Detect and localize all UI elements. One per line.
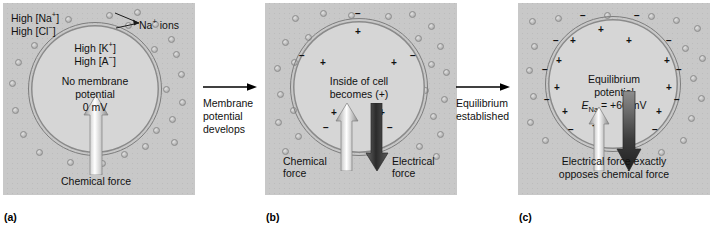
ion [179, 99, 186, 106]
ion [680, 137, 687, 144]
charge-negative-outside: − [674, 95, 680, 105]
ion [67, 159, 74, 166]
transition-2-caption-line-1: Equilibrium [456, 97, 512, 109]
transition-2: Equilibrium established [456, 78, 512, 122]
transition-1-caption-line-2: potential [203, 110, 259, 122]
panel-b: − − − − − + + + + + Inside of cell becom… [265, 3, 457, 195]
ion [648, 13, 655, 20]
transition-1-arrow-icon [203, 82, 259, 92]
panel-b-electrical-force-line-1: Electrical [392, 155, 435, 168]
charge-negative-outside: − [568, 125, 574, 135]
panel-c-equilibrium-potential-value: ENa = +60 mV [554, 99, 674, 117]
ion [526, 67, 533, 74]
ion [12, 107, 19, 114]
panel-a-center-line-1: No membrane [35, 75, 155, 88]
ion [20, 131, 27, 138]
panel-letter-a: (a) [4, 211, 17, 223]
label-na-ions: Na+ ions [139, 16, 179, 31]
transition-2-arrow-icon [456, 82, 512, 92]
ion [151, 46, 158, 53]
ion [531, 43, 538, 50]
ion [428, 23, 435, 30]
ion [277, 91, 284, 98]
charge-negative-outside: − [652, 125, 658, 135]
ion [121, 151, 128, 158]
charge-negative-outside: − [410, 51, 416, 61]
ion [15, 59, 22, 66]
ion [153, 127, 160, 134]
ion [292, 15, 299, 22]
charge-negative-outside: − [553, 36, 559, 46]
panel-b-chemical-force-line-1: Chemical [283, 155, 327, 168]
panel-letter-c: (c) [519, 211, 532, 223]
charge-negative-outside: − [580, 11, 586, 21]
ion [31, 42, 38, 49]
panel-a: High [Na+] High [Cl−] Na+ ions High [K+]… [3, 3, 195, 195]
charge-positive-inside: + [355, 27, 361, 37]
panel-c-center-line-1: Equilibrium [554, 73, 674, 86]
ion [163, 86, 170, 93]
ion [443, 69, 450, 76]
panel-c-center-line-2: potential [554, 86, 674, 99]
charge-negative-outside: − [299, 51, 305, 61]
panel-c-caption-line-1: Electrical force exactly [534, 155, 694, 168]
ion [385, 13, 392, 20]
ion [169, 116, 176, 123]
charge-positive-inside: + [598, 25, 604, 35]
panel-b-electrical-force-line-2: force [392, 167, 415, 180]
ion [282, 39, 289, 46]
ion [320, 10, 327, 17]
panel-c-caption-line-2: opposes chemical force [534, 168, 694, 181]
ion [275, 119, 282, 126]
charge-positive-inside: + [626, 36, 632, 46]
transition-2-caption-line-2: established [456, 110, 512, 122]
ion [542, 137, 549, 144]
ion [430, 113, 437, 120]
ion [441, 96, 448, 103]
ion [673, 17, 680, 24]
ion [698, 95, 705, 102]
ion [694, 25, 701, 32]
ion [65, 16, 72, 23]
ion [530, 93, 537, 100]
panel-b-chemical-force-line-2: force [283, 167, 306, 180]
ion [690, 75, 697, 82]
ion [428, 61, 435, 68]
ion [142, 143, 149, 150]
ion [527, 119, 534, 126]
charge-positive-inside: + [556, 56, 562, 66]
ion [699, 55, 706, 62]
charge-positive-inside: + [320, 58, 326, 68]
charge-negative-outside: − [666, 36, 672, 46]
ion [416, 143, 423, 150]
charge-positive-inside: + [664, 56, 670, 66]
na-ions-leader-lines [107, 9, 143, 35]
charge-negative-outside: − [542, 65, 548, 75]
ion [437, 131, 444, 138]
ion [295, 133, 302, 140]
ion [555, 15, 562, 22]
panel-b-center-line-2: becomes (+) [299, 88, 419, 101]
transition-1-caption-line-3: develops [203, 123, 259, 135]
panel-c: − − − − − − − − − − + + + + + + + + + + … [518, 3, 710, 195]
panel-letter-b: (b) [266, 211, 279, 223]
charge-negative-outside: − [323, 123, 329, 133]
electrical-force-arrow [365, 103, 389, 171]
charge-positive-inside: + [391, 58, 397, 68]
ion [282, 148, 289, 155]
ion [688, 115, 695, 122]
ion [171, 139, 178, 146]
ion [168, 36, 175, 43]
ion [409, 11, 416, 18]
charge-positive-inside: + [570, 36, 576, 46]
transition-1: Membrane potential develops [203, 78, 259, 135]
chemical-force-arrow [335, 103, 359, 171]
panel-b-center-line-1: Inside of cell [299, 75, 419, 88]
ion [9, 80, 16, 87]
ion [682, 45, 689, 52]
charge-negative-outside: − [634, 11, 640, 21]
ion [274, 65, 281, 72]
ion [529, 18, 536, 25]
transition-1-caption-line-1: Membrane [203, 97, 259, 109]
ion [415, 35, 422, 42]
